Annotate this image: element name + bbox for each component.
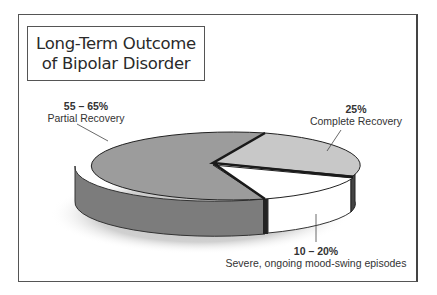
label-partial-text: Partial Recovery xyxy=(47,112,124,124)
label-severe: 10 – 20% Severe, ongoing mood-swing epis… xyxy=(218,245,414,269)
slice-edge-partial-severe xyxy=(263,198,268,234)
label-partial: 55 – 65% Partial Recovery xyxy=(30,100,142,124)
label-severe-text: Severe, ongoing mood-swing episodes xyxy=(226,257,407,269)
label-complete: 25% Complete Recovery xyxy=(300,103,412,127)
label-complete-pct: 25% xyxy=(300,103,412,115)
leader-line-partial xyxy=(77,124,108,141)
label-partial-pct: 55 – 65% xyxy=(30,100,142,112)
label-severe-pct: 10 – 20% xyxy=(218,245,414,257)
label-complete-text: Complete Recovery xyxy=(310,115,402,127)
